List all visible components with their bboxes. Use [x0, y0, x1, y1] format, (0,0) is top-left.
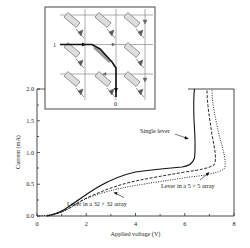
x-tick-8: 8	[232, 220, 235, 227]
figure: 0.0 0.5 1.0 1.5 2.0 0 2 4 6 8 Applied vo…	[0, 0, 250, 248]
x-tick-0: 0	[35, 220, 38, 227]
inset-label-row-1: 1	[53, 41, 56, 48]
y-tick-2-0: 2.0	[26, 85, 34, 92]
inset-label-column-0: 0	[114, 100, 117, 107]
label-32x32-array: Lever in a 32 × 32 array	[67, 200, 128, 207]
chart-svg: 0.0 0.5 1.0 1.5 2.0 0 2 4 6 8 Applied vo…	[0, 0, 250, 248]
y-axis-tick-labels: 0.0 0.5 1.0 1.5 2.0	[26, 85, 34, 219]
y-tick-0-5: 0.5	[26, 180, 34, 187]
label-single-lever: Single lever	[140, 127, 170, 134]
inset-crossbar-schematic: 1 0	[37, 7, 155, 109]
x-tick-6: 6	[183, 220, 186, 227]
y-tick-0: 0.0	[26, 212, 34, 219]
x-axis-tick-labels: 0 2 4 6 8	[35, 220, 235, 227]
y-axis-label: Current (mA)	[14, 135, 22, 169]
label-5x5-array: Lever in a 5 × 5 array	[161, 182, 216, 189]
x-tick-2: 2	[85, 220, 88, 227]
x-tick-4: 4	[134, 220, 137, 227]
y-tick-1-0: 1.0	[26, 149, 34, 156]
x-axis-label: Applied voltage (V)	[111, 230, 161, 238]
annotation-single-lever: Single lever	[140, 127, 189, 139]
y-tick-1-5: 1.5	[26, 117, 34, 124]
